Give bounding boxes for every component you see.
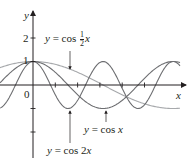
label-cos-x: y = cos x bbox=[84, 124, 123, 135]
fraction-one-half: 12 bbox=[80, 31, 84, 48]
label-cos-half-x: y = cos 12x bbox=[45, 31, 90, 48]
y-axis-label: y bbox=[24, 10, 29, 21]
y-tick-1-label: 1 bbox=[23, 55, 29, 66]
origin-label: 0 bbox=[24, 89, 30, 100]
label-cos-2x: y = cos 2x bbox=[47, 145, 91, 156]
chart-canvas bbox=[0, 0, 192, 164]
x-axis-label: x bbox=[176, 90, 181, 101]
y-tick-2-label: 2 bbox=[23, 33, 29, 44]
